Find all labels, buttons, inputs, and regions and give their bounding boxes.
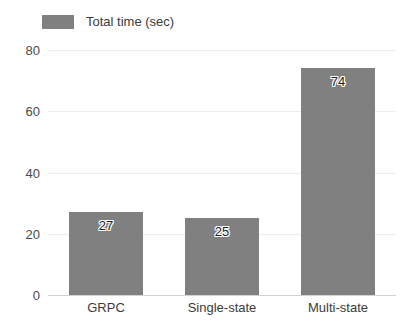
y-axis-tick-label: 40: [26, 165, 40, 180]
chart-legend: Total time (sec): [42, 13, 174, 31]
bar-value-label: 25: [185, 224, 259, 239]
bar-group: 27: [69, 50, 143, 295]
bar-group: 74: [301, 50, 375, 295]
y-axis-tick-label: 80: [26, 43, 40, 58]
bar-value-label: 74: [301, 74, 375, 89]
y-axis-tick-label: 20: [26, 226, 40, 241]
x-axis-category-label: Multi-state: [280, 300, 396, 315]
bar-value-label: 27: [69, 218, 143, 233]
y-axis-tick-label: 60: [26, 104, 40, 119]
bar-chart: Total time (sec) 020406080 272574 GRPCSi…: [0, 0, 404, 326]
x-axis-category-label: Single-state: [164, 300, 280, 315]
plot-area: 272574: [48, 50, 396, 295]
legend-swatch-total-time: [42, 15, 74, 29]
y-axis-tick-label: 0: [33, 288, 40, 303]
y-axis-labels: 020406080: [0, 50, 40, 295]
x-axis-labels: GRPCSingle-stateMulti-state: [48, 300, 396, 322]
axis-baseline: [48, 295, 396, 296]
x-axis-category-label: GRPC: [48, 300, 164, 315]
bar-series-total-time: 272574: [48, 50, 396, 295]
bar[interactable]: [301, 68, 375, 295]
bar-group: 25: [185, 50, 259, 295]
legend-label-total-time: Total time (sec): [86, 15, 174, 29]
